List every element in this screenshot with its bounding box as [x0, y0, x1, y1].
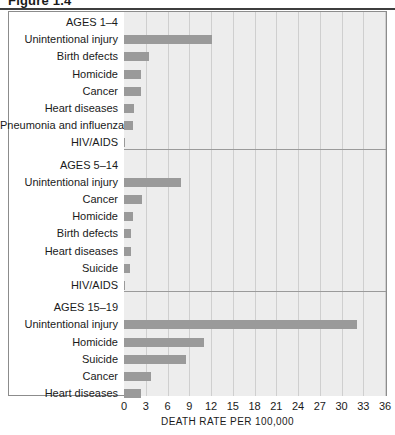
bar [124, 264, 130, 273]
x-tick-15: 15 [227, 399, 239, 413]
chart-bar-row: Homicide [0, 66, 395, 83]
category-label: Suicide [0, 351, 118, 368]
category-label: Homicide [0, 66, 118, 83]
group-separator [124, 149, 386, 150]
x-tick-30: 30 [335, 399, 347, 413]
bar [124, 52, 149, 61]
chart-bar-row: Unintentional injury [0, 316, 395, 333]
category-label: Pneumonia and influenza [0, 117, 118, 134]
chart-bar-row: Unintentional injury [0, 174, 395, 191]
bar [124, 121, 133, 130]
chart-bar-row: Homicide [0, 208, 395, 225]
category-label: HIV/AIDS [0, 277, 118, 294]
chart-bar-row: Birth defects [0, 48, 395, 65]
category-label: Unintentional injury [0, 316, 118, 333]
x-tick-0: 0 [121, 399, 127, 413]
bar [124, 338, 204, 347]
bar [124, 389, 141, 398]
chart-figure: Figure 1.4 AGES 1–4Unintentional injuryB… [0, 0, 395, 435]
category-label: Heart diseases [0, 100, 118, 117]
category-label: Birth defects [0, 225, 118, 242]
chart-bar-row: Unintentional injury [0, 31, 395, 48]
bar [124, 178, 181, 187]
bar [124, 355, 186, 364]
group-heading-row: AGES 15–19 [0, 299, 395, 316]
chart-bar-row: Suicide [0, 260, 395, 277]
chart-bar-row: Pneumonia and influenza [0, 117, 395, 134]
category-label: Homicide [0, 334, 118, 351]
x-axis-label-text: DEATH RATE PER 100,000 [101, 416, 294, 427]
bar [124, 281, 125, 290]
bar [124, 247, 131, 256]
x-tick-9: 9 [186, 399, 192, 413]
x-tick-18: 18 [248, 399, 260, 413]
chart-bar-row: Heart diseases [0, 243, 395, 260]
chart-bar-row: Cancer [0, 191, 395, 208]
category-label: Cancer [0, 83, 118, 100]
figure-title: Figure 1.4 [8, 0, 71, 8]
group-separator [124, 291, 386, 292]
group-heading-row: AGES 5–14 [0, 157, 395, 174]
group-label: AGES 15–19 [0, 299, 118, 316]
category-label: Heart diseases [0, 243, 118, 260]
category-label: Unintentional injury [0, 174, 118, 191]
x-axis-label: DEATH RATE PER 100,000 [0, 416, 395, 427]
category-label: Cancer [0, 368, 118, 385]
x-tick-21: 21 [270, 399, 282, 413]
bar [124, 70, 141, 79]
x-tick-3: 3 [143, 399, 149, 413]
x-tick-33: 33 [357, 399, 369, 413]
bar [124, 320, 357, 329]
bar [124, 372, 151, 381]
bar [124, 195, 142, 204]
bar [124, 35, 212, 44]
chart-bar-row: Birth defects [0, 225, 395, 242]
group-label: AGES 5–14 [0, 157, 118, 174]
bar [124, 212, 133, 221]
x-axis-ticks: 0369121518212427303336 [0, 399, 395, 413]
x-tick-27: 27 [314, 399, 326, 413]
x-tick-6: 6 [164, 399, 170, 413]
chart-bar-row: Cancer [0, 83, 395, 100]
category-label: Unintentional injury [0, 31, 118, 48]
chart-bar-row: Heart diseases [0, 100, 395, 117]
category-label: Suicide [0, 260, 118, 277]
x-tick-36: 36 [379, 399, 391, 413]
group-heading-row: AGES 1–4 [0, 14, 395, 31]
bar [124, 138, 125, 147]
title-rule [0, 8, 395, 10]
category-label: Cancer [0, 191, 118, 208]
chart-bar-row: Suicide [0, 351, 395, 368]
x-tick-24: 24 [292, 399, 304, 413]
bar [124, 229, 131, 238]
bar [124, 104, 134, 113]
category-label: HIV/AIDS [0, 134, 118, 151]
bar [124, 87, 141, 96]
chart-bar-row: Cancer [0, 368, 395, 385]
category-label: Birth defects [0, 48, 118, 65]
category-label: Homicide [0, 208, 118, 225]
x-tick-12: 12 [205, 399, 217, 413]
group-label: AGES 1–4 [0, 14, 118, 31]
chart-bar-row: Homicide [0, 334, 395, 351]
